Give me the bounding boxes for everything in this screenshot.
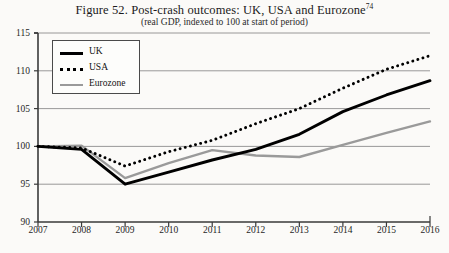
legend-swatch-usa-icon (60, 68, 83, 71)
y-axis-tick-label: 105 (2, 104, 30, 114)
legend-swatch-uk-icon (60, 52, 83, 55)
line-chart (0, 0, 449, 253)
x-axis-tick-label: 2015 (366, 225, 406, 235)
x-axis-tick-label: 2011 (192, 225, 232, 235)
y-axis-tick-label: 115 (2, 28, 30, 38)
y-axis-tick-label: 100 (2, 141, 30, 151)
figure-container: Figure 52. Post-crash outcomes: UK, USA … (0, 0, 449, 253)
legend-swatch-eurozone-icon (60, 84, 83, 86)
chart-plot-area (0, 0, 449, 253)
x-axis-tick-label: 2007 (18, 225, 58, 235)
legend-item-uk: UK (60, 44, 103, 58)
x-axis-tick-label: 2008 (62, 225, 102, 235)
x-axis-tick-label: 2010 (149, 225, 189, 235)
legend-label-usa: USA (89, 62, 108, 72)
y-axis-tick-label: 110 (2, 66, 30, 76)
x-axis-tick-label: 2012 (236, 225, 276, 235)
legend-label-uk: UK (89, 46, 103, 56)
x-axis-tick-label: 2014 (323, 225, 363, 235)
x-axis-tick-label: 2016 (410, 225, 449, 235)
legend-item-usa: USA (60, 60, 108, 74)
chart-legend: UK USA Eurozone (52, 40, 140, 94)
x-axis-tick-label: 2013 (279, 225, 319, 235)
x-axis-tick-label: 2009 (105, 225, 145, 235)
legend-item-eurozone: Eurozone (60, 76, 125, 90)
legend-label-eurozone: Eurozone (89, 78, 125, 88)
y-axis-tick-label: 95 (2, 179, 30, 189)
